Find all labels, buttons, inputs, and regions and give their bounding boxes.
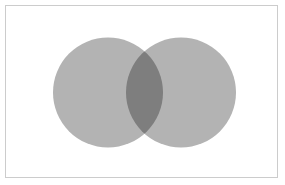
venn-diagram bbox=[0, 0, 285, 185]
venn-circle-set-b[interactable] bbox=[126, 38, 236, 148]
figure-canvas bbox=[0, 0, 285, 185]
venn-svg bbox=[0, 0, 285, 185]
